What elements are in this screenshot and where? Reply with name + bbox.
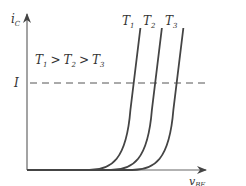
transfer-characteristic-diagram: iC vBE I T1>T2>T3 T1 T2 T3 [0, 0, 246, 186]
temperature-relation: T1>T2>T3 [35, 53, 105, 69]
curve-label-t3: T3 [165, 14, 178, 30]
curve-label-t1: T1 [122, 14, 134, 30]
current-level-label: I [13, 76, 19, 90]
y-axis-label: iC [11, 12, 21, 28]
curve-t2 [27, 28, 162, 170]
curve-label-t2: T2 [143, 14, 156, 30]
x-axis-label: vBE [189, 175, 205, 186]
curves-group [27, 28, 183, 170]
curve-t1 [27, 28, 140, 170]
